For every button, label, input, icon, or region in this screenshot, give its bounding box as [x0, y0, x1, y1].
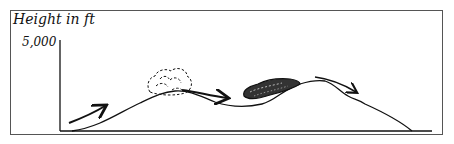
mountain-airflow-diagram: [0, 0, 454, 144]
terrain-profile: [72, 81, 412, 131]
arrow-downslope-icon: [315, 77, 356, 92]
dark-cloud-icon: [244, 79, 300, 99]
arrow-upslope-icon: [69, 106, 105, 123]
arrow-valley-icon: [182, 90, 227, 98]
